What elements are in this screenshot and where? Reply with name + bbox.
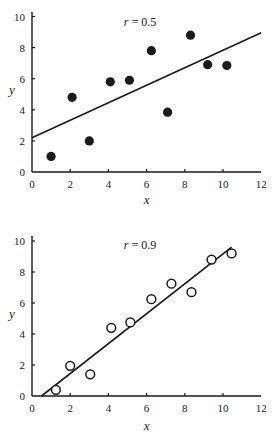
y-tick-label: 0 (20, 166, 26, 178)
data-point (51, 385, 60, 394)
y-tick-label: 8 (20, 42, 26, 54)
data-point (187, 288, 196, 297)
data-point (167, 279, 176, 288)
data-point (147, 46, 156, 55)
x-tick-label: 8 (182, 178, 188, 190)
data-point (66, 361, 75, 370)
x-axis-label: x (143, 418, 150, 433)
y-axis-label: y (7, 306, 15, 321)
data-point (107, 323, 116, 332)
data-point (186, 31, 195, 40)
data-point (222, 61, 231, 70)
chart-panel-1: 0246810024681012xyr = 0.5 (7, 11, 267, 208)
x-tick-label: 12 (256, 178, 267, 190)
x-tick-label: 6 (144, 402, 150, 414)
x-tick-label: 10 (218, 178, 230, 190)
data-point (68, 93, 77, 102)
data-point (126, 318, 135, 327)
x-tick-label: 4 (106, 402, 112, 414)
data-point (85, 136, 94, 145)
y-tick-label: 10 (14, 235, 26, 247)
y-tick-label: 6 (20, 73, 26, 85)
x-tick-label: 6 (144, 178, 150, 190)
data-point (86, 370, 95, 379)
x-axis-label: x (143, 192, 150, 207)
y-tick-label: 8 (20, 266, 26, 278)
data-point (125, 76, 134, 85)
x-tick-label: 2 (67, 178, 73, 190)
y-tick-label: 2 (20, 135, 26, 147)
data-point (147, 295, 156, 304)
correlation-annotation: r = 0.9 (124, 238, 156, 252)
x-tick-label: 8 (182, 402, 188, 414)
data-point (106, 77, 115, 86)
x-tick-label: 4 (106, 178, 112, 190)
y-tick-label: 4 (20, 328, 26, 340)
x-tick-label: 10 (218, 402, 230, 414)
x-tick-label: 0 (29, 178, 35, 190)
y-tick-label: 2 (20, 359, 26, 371)
correlation-annotation: r = 0.5 (124, 15, 156, 29)
y-tick-label: 0 (20, 390, 26, 402)
y-tick-label: 6 (20, 297, 26, 309)
data-point (163, 108, 172, 117)
data-point (207, 255, 216, 264)
regression-line (42, 247, 232, 396)
y-tick-label: 4 (20, 104, 26, 116)
data-point (203, 60, 212, 69)
scatter-charts: 0246810024681012xyr = 0.5024681002468101… (0, 0, 275, 444)
x-tick-label: 12 (256, 402, 267, 414)
chart-panel-2: 0246810024681012xyr = 0.9 (7, 235, 267, 433)
data-point (47, 152, 56, 161)
x-tick-label: 0 (29, 402, 35, 414)
x-tick-label: 2 (67, 402, 73, 414)
y-tick-label: 10 (14, 11, 26, 23)
data-point (227, 249, 236, 258)
regression-line (32, 33, 261, 138)
y-axis-label: y (7, 82, 15, 97)
